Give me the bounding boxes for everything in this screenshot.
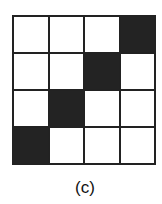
- empty-cell: [84, 90, 120, 127]
- filled-cell: [13, 127, 49, 164]
- empty-cell: [120, 127, 156, 164]
- empty-cell: [13, 53, 49, 90]
- empty-cell: [120, 53, 156, 90]
- empty-cell: [49, 53, 85, 90]
- filled-cell: [49, 90, 85, 127]
- empty-cell: [49, 16, 85, 53]
- empty-cell: [84, 16, 120, 53]
- empty-cell: [84, 127, 120, 164]
- filled-cell: [84, 53, 120, 90]
- empty-cell: [49, 127, 85, 164]
- empty-cell: [13, 90, 49, 127]
- grid-diagram: [12, 15, 156, 165]
- filled-cell: [120, 16, 156, 53]
- figure-label: (c): [0, 178, 162, 198]
- empty-cell: [13, 16, 49, 53]
- empty-cell: [120, 90, 156, 127]
